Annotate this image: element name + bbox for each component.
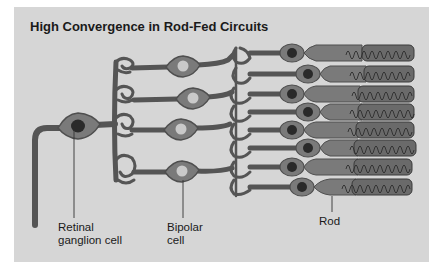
rod-3 (280, 85, 414, 103)
bipolar-rod-synapses (231, 48, 250, 196)
bipolar-cell-label: Bipolar cell (167, 221, 203, 247)
ganglion-trunk (115, 62, 117, 180)
bipolar-dendrites (196, 54, 234, 171)
ganglion-bipolar-synapses (116, 58, 135, 183)
ganglion-axon (35, 128, 60, 225)
ganglion-label-line2: ganglion cell (58, 234, 122, 247)
rods (280, 44, 416, 196)
bipolar-label-line1: Bipolar (167, 221, 203, 234)
rod-label-text: Rod (319, 215, 340, 228)
rod-label: Rod (319, 215, 340, 228)
ganglion-label-line1: Retinal (58, 221, 122, 234)
bipolar-label-line2: cell (167, 234, 203, 247)
bipolar-cells (164, 56, 210, 182)
bipolar-axons (132, 67, 178, 172)
ganglion-cell-label: Retinal ganglion cell (58, 221, 122, 247)
ganglion-cell (58, 113, 100, 139)
